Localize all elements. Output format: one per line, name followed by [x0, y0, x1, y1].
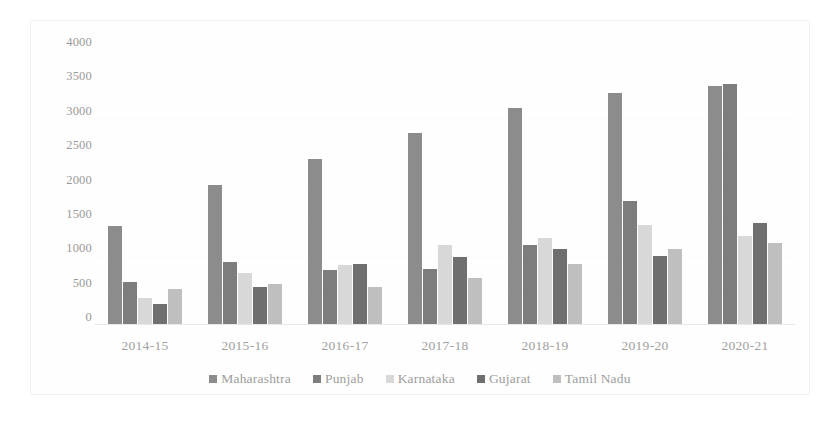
bar[interactable] — [768, 243, 782, 326]
legend-swatch-icon — [386, 375, 394, 383]
bar[interactable] — [208, 185, 222, 325]
plot-area — [95, 50, 795, 325]
bar[interactable] — [338, 265, 352, 326]
legend-swatch-icon — [477, 375, 485, 383]
bar[interactable] — [453, 257, 467, 325]
legend-swatch-icon — [313, 375, 321, 383]
y-axis-tick-label: 2500 — [36, 139, 92, 152]
bar[interactable] — [408, 133, 422, 326]
y-axis-tick-label: 2000 — [36, 173, 92, 186]
bar-group — [695, 50, 795, 325]
bar[interactable] — [308, 159, 322, 325]
legend-swatch-icon — [209, 375, 217, 383]
bar[interactable] — [753, 223, 767, 325]
bar-group — [395, 50, 495, 325]
y-axis-tick-label: 3000 — [36, 105, 92, 118]
legend-label: Gujarat — [489, 371, 531, 387]
x-axis-tick-label: 2019-20 — [595, 332, 695, 360]
bar[interactable] — [138, 298, 152, 326]
bar[interactable] — [738, 236, 752, 325]
bar-groups — [95, 50, 795, 325]
bar[interactable] — [638, 225, 652, 325]
bar[interactable] — [153, 304, 167, 325]
x-axis-tick-label: 2018-19 — [495, 332, 595, 360]
y-axis-tick-label: 1000 — [36, 242, 92, 255]
bar[interactable] — [353, 264, 367, 325]
y-axis-tick-label: 1500 — [36, 208, 92, 221]
bar-group — [495, 50, 595, 325]
y-axis: 40003500300025002000150010005000 — [36, 42, 92, 332]
legend-item[interactable]: Tamil Nadu — [553, 371, 631, 387]
bar[interactable] — [323, 270, 337, 325]
x-axis-tick-label: 2015-16 — [195, 332, 295, 360]
x-axis-tick-label: 2017-18 — [395, 332, 495, 360]
bar[interactable] — [168, 289, 182, 325]
legend-label: Tamil Nadu — [565, 371, 631, 387]
x-axis-tick-label: 2014-15 — [95, 332, 195, 360]
legend-label: Maharashtra — [221, 371, 291, 387]
legend-item[interactable]: Karnataka — [386, 371, 455, 387]
bar[interactable] — [538, 238, 552, 325]
legend-label: Punjab — [325, 371, 364, 387]
bar-group — [195, 50, 295, 325]
bar[interactable] — [508, 108, 522, 325]
x-axis: 2014-152015-162016-172017-182018-192019-… — [95, 332, 795, 360]
legend-item[interactable]: Gujarat — [477, 371, 531, 387]
bar[interactable] — [608, 93, 622, 325]
bar[interactable] — [523, 245, 537, 325]
bar-group — [95, 50, 195, 325]
bar[interactable] — [708, 86, 722, 325]
bar-group — [595, 50, 695, 325]
bar[interactable] — [623, 201, 637, 325]
bar[interactable] — [468, 278, 482, 325]
bar-chart-figure: 40003500300025002000150010005000 2014-15… — [0, 0, 826, 435]
bar[interactable] — [223, 262, 237, 325]
axis-baseline — [95, 324, 795, 325]
legend-item[interactable]: Maharashtra — [209, 371, 291, 387]
bar[interactable] — [653, 256, 667, 325]
bar[interactable] — [238, 273, 252, 325]
bar[interactable] — [553, 249, 567, 325]
bar-group — [295, 50, 395, 325]
legend-label: Karnataka — [398, 371, 455, 387]
chart-legend: MaharashtraPunjabKarnatakaGujaratTamil N… — [30, 368, 810, 390]
y-axis-tick-label: 0 — [36, 311, 92, 324]
x-axis-tick-label: 2016-17 — [295, 332, 395, 360]
bar[interactable] — [723, 84, 737, 325]
bar[interactable] — [568, 264, 582, 325]
bar[interactable] — [123, 282, 137, 325]
bar[interactable] — [423, 269, 437, 325]
bar[interactable] — [438, 245, 452, 325]
bar[interactable] — [253, 287, 267, 326]
y-axis-tick-label: 500 — [36, 276, 92, 289]
y-axis-tick-label: 4000 — [36, 36, 92, 49]
x-axis-tick-label: 2020-21 — [695, 332, 795, 360]
y-axis-tick-label: 3500 — [36, 70, 92, 83]
bar[interactable] — [108, 226, 122, 325]
legend-swatch-icon — [553, 375, 561, 383]
bar[interactable] — [668, 249, 682, 325]
legend-item[interactable]: Punjab — [313, 371, 364, 387]
bar[interactable] — [268, 284, 282, 325]
bar[interactable] — [368, 287, 382, 326]
